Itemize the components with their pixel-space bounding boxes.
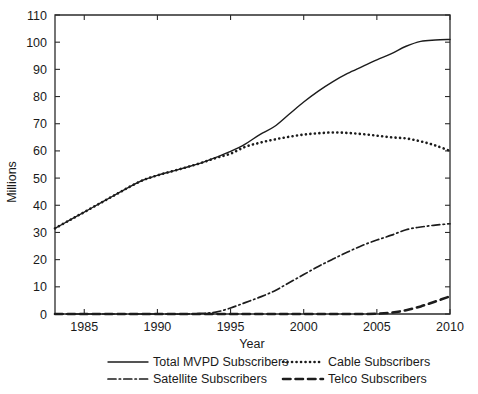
y-tick-label: 20: [33, 253, 47, 267]
chart-figure: 0102030405060708090100110 19851990199520…: [0, 0, 478, 394]
x-tick-label: 1995: [217, 320, 245, 334]
chart-legend: Total MVPD SubscribersCable SubscribersS…: [108, 355, 430, 386]
y-tick-label: 30: [33, 226, 47, 240]
x-tick-label: 2005: [363, 320, 391, 334]
y-tick-label: 60: [33, 144, 47, 158]
y-tick-label: 90: [33, 63, 47, 77]
y-tick-label: 70: [33, 117, 47, 131]
y-tick-label: 0: [40, 308, 47, 322]
x-tick-label: 2010: [436, 320, 464, 334]
series-layer: [55, 39, 450, 314]
legend-label: Total MVPD Subscribers: [153, 355, 288, 369]
legend-label: Cable Subscribers: [328, 355, 430, 369]
axes-frame: [55, 15, 450, 314]
y-tick-label: 40: [33, 199, 47, 213]
legend-label: Satellite Subscribers: [153, 372, 267, 386]
series-line-satellite: [55, 224, 450, 314]
x-tick-label: 1990: [144, 320, 172, 334]
y-axis-label: Millions: [5, 161, 19, 203]
y-tick-label: 110: [27, 9, 47, 23]
x-tick-label: 2000: [290, 320, 318, 334]
y-tick-label: 50: [33, 172, 47, 186]
series-line-telco: [55, 296, 450, 314]
x-tick-label: 1985: [70, 320, 98, 334]
legend-label: Telco Subscribers: [328, 372, 427, 386]
x-axis-label: Year: [239, 337, 264, 351]
y-tick-label: 10: [33, 280, 47, 294]
y-tick-label: 100: [26, 36, 47, 50]
chart-svg: 0102030405060708090100110 19851990199520…: [0, 0, 478, 394]
series-line-cable: [55, 132, 450, 228]
series-line-total-mvpd: [55, 39, 450, 228]
y-tick-label: 80: [33, 90, 47, 104]
x-axis-ticks: 198519901995200020052010: [70, 15, 464, 334]
